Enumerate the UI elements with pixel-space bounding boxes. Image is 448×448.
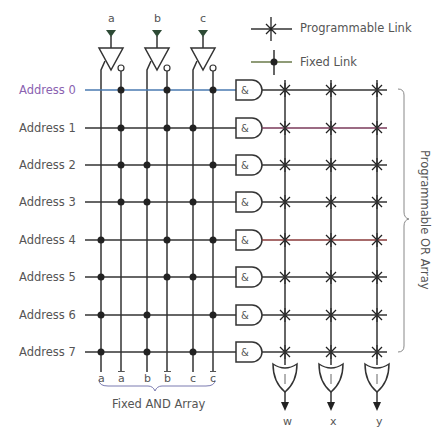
fixed-link-dot (210, 312, 217, 319)
fixed-link-dot (98, 312, 105, 319)
programmable-or-array-label: Programmable OR Array (418, 150, 432, 290)
address-label-0: Address 0 (19, 83, 76, 97)
fixed-link-dot (118, 199, 125, 206)
fixed-link-dot (164, 274, 171, 281)
and-gate-icon (236, 267, 262, 287)
fixed-link-dot (210, 237, 217, 244)
and-symbol: & (241, 197, 249, 208)
fixed-link-dot (98, 274, 105, 281)
column-label-a: a (98, 372, 105, 385)
and-gate-icon (236, 80, 262, 100)
fixed-link-dot (190, 199, 197, 206)
input-arrow-icon (106, 30, 116, 37)
fixed-link-dot (210, 162, 217, 169)
output-arrow-icon (281, 402, 289, 411)
input-arrow-icon (198, 30, 208, 37)
circuit-drawing: &&&&&&&& (0, 0, 448, 448)
inverter-bubble-icon (164, 65, 170, 71)
true-column-wire (101, 61, 105, 372)
output-label-w: w (283, 415, 292, 428)
column-label-a-bar: a (118, 372, 125, 385)
address-label-1: Address 1 (19, 121, 76, 135)
fixed-link-dot (164, 237, 171, 244)
column-label-b-bar: b (164, 372, 171, 385)
and-symbol: & (241, 235, 249, 246)
address-label-5: Address 5 (19, 270, 76, 284)
and-gate-icon (236, 342, 262, 362)
fixed-link-dot (190, 349, 197, 356)
column-label-c: c (190, 372, 196, 385)
column-label-c-bar: c (210, 372, 216, 385)
output-arrow-icon (327, 402, 335, 411)
fixed-link-dot (144, 349, 151, 356)
fixed-link-dot (98, 237, 105, 244)
fixed-link-dot (144, 312, 151, 319)
and-symbol: & (241, 310, 249, 321)
legend-fixed-link-icon (271, 59, 278, 66)
fixed-link-dot (210, 87, 217, 94)
true-column-wire (193, 61, 197, 372)
column-label-b: b (144, 372, 151, 385)
fixed-link-dot (164, 87, 171, 94)
fixed-link-dot (190, 274, 197, 281)
legend-programmable-label: Programmable Link (300, 21, 412, 35)
fixed-link-dot (98, 349, 105, 356)
fixed-link-dot (118, 125, 125, 132)
input-label-a: a (108, 12, 115, 25)
true-column-wire (147, 61, 151, 372)
and-symbol: & (241, 160, 249, 171)
fixed-link-dot (118, 162, 125, 169)
address-label-7: Address 7 (19, 345, 76, 359)
address-label-3: Address 3 (19, 195, 76, 209)
and-gate-icon (236, 305, 262, 325)
address-label-4: Address 4 (19, 233, 76, 247)
and-symbol: & (241, 123, 249, 134)
and-gate-icon (236, 192, 262, 212)
inverter-bubble-icon (118, 65, 124, 71)
and-gate-icon (236, 230, 262, 250)
fixed-and-brace (99, 380, 215, 391)
fixed-link-dot (164, 125, 171, 132)
output-arrow-icon (373, 402, 381, 411)
address-label-2: Address 2 (19, 158, 76, 172)
input-label-c: c (200, 12, 206, 25)
fixed-link-dot (144, 162, 151, 169)
and-symbol: & (241, 85, 249, 96)
fixed-link-dot (190, 125, 197, 132)
programmable-or-brace (398, 89, 409, 352)
inverter-bubble-icon (210, 65, 216, 71)
legend-fixed-label: Fixed Link (300, 55, 357, 69)
output-label-x: x (330, 415, 337, 428)
input-arrow-icon (152, 30, 162, 37)
address-label-6: Address 6 (19, 308, 76, 322)
output-label-y: y (376, 415, 383, 428)
and-symbol: & (241, 272, 249, 283)
input-label-b: b (154, 12, 161, 25)
fixed-link-dot (118, 87, 125, 94)
and-gate-icon (236, 118, 262, 138)
prom-diagram: &&&&&&&& a b c Programmable Link Fixed L… (0, 0, 448, 448)
and-gate-icon (236, 155, 262, 175)
fixed-link-dot (144, 199, 151, 206)
fixed-and-array-label: Fixed AND Array (112, 397, 205, 411)
and-symbol: & (241, 347, 249, 358)
